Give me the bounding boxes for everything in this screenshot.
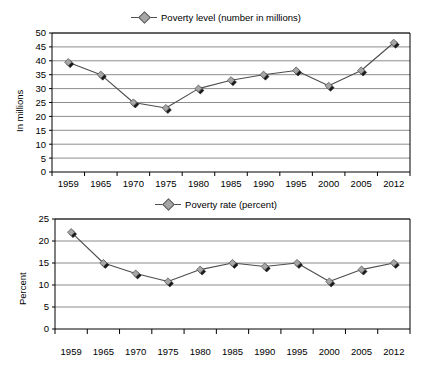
y-axis-tick-label: 0 [41, 166, 46, 177]
x-axis-tick-label: 2012 [383, 346, 404, 357]
y-axis-tick-label: 20 [35, 111, 46, 122]
y-axis-tick-label: 35 [35, 69, 46, 80]
x-axis-tick-label: 1975 [155, 178, 176, 189]
y-axis-tick-label: 25 [35, 97, 46, 108]
y-axis-tick-label: 5 [44, 301, 49, 312]
x-axis-tick-label: 1990 [253, 178, 274, 189]
y-axis-tick-label: 5 [41, 153, 46, 164]
chart-poverty-level: Poverty level (number in millions) In mi… [0, 0, 432, 190]
x-axis-tick-label: 1985 [222, 346, 243, 357]
x-axis-tick-label: 1975 [157, 346, 178, 357]
y-axis-tick-label: 15 [35, 125, 46, 136]
x-axis-tick-label: 1965 [93, 346, 114, 357]
x-axis-tick-label: 1970 [123, 178, 144, 189]
plot-area-poverty-rate: 0510152025195919651970197519801985199019… [0, 190, 432, 365]
x-axis-tick-label: 1965 [90, 178, 111, 189]
y-axis-tick-label: 30 [35, 83, 46, 94]
x-axis-tick-label: 2005 [351, 178, 372, 189]
x-axis-tick-label: 2012 [383, 178, 404, 189]
y-axis-tick-label: 10 [35, 139, 46, 150]
chart-poverty-rate: Poverty rate (percent) Percent 051015202… [0, 190, 432, 365]
y-axis-tick-label: 0 [44, 323, 49, 334]
x-axis-tick-label: 1995 [286, 178, 307, 189]
x-axis-tick-label: 1985 [220, 178, 241, 189]
y-axis-tick-label: 15 [38, 257, 49, 268]
y-axis-tick-label: 45 [35, 41, 46, 52]
x-axis-tick-label: 1959 [58, 178, 79, 189]
plot-area-poverty-level: 0510152025303540455019591965197019751980… [0, 0, 432, 190]
x-axis-tick-label: 1980 [188, 178, 209, 189]
y-axis-tick-label: 50 [35, 27, 46, 38]
y-axis-tick-label: 40 [35, 55, 46, 66]
x-axis-tick-label: 2000 [319, 346, 340, 357]
x-axis-tick-label: 1980 [190, 346, 211, 357]
x-axis-tick-label: 1990 [254, 346, 275, 357]
y-axis-tick-label: 20 [38, 235, 49, 246]
x-axis-tick-label: 2000 [318, 178, 339, 189]
x-axis-tick-label: 2005 [351, 346, 372, 357]
y-axis-tick-label: 25 [38, 213, 49, 224]
figure-container: Poverty level (number in millions) In mi… [0, 0, 432, 365]
x-axis-tick-label: 1995 [286, 346, 307, 357]
x-axis-tick-label: 1959 [61, 346, 82, 357]
x-axis-tick-label: 1970 [125, 346, 146, 357]
y-axis-tick-label: 10 [38, 279, 49, 290]
